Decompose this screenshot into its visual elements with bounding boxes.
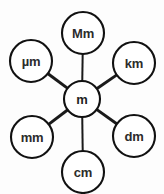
spoke-m-to-um	[47, 73, 68, 89]
unit-node-dm: dm	[113, 115, 155, 157]
unit-label-km: km	[125, 56, 143, 71]
spoke-m-to-km	[96, 74, 118, 89]
unit-nodes-group: Mmkmdmcmmmµmm	[10, 12, 155, 193]
unit-node-km: km	[113, 42, 155, 84]
unit-label-Mm: Mm	[72, 26, 94, 41]
unit-node-um: µm	[10, 40, 52, 82]
unit-label-um: µm	[22, 54, 41, 69]
unit-node-Mm: Mm	[62, 12, 104, 54]
unit-node-cm: cm	[62, 151, 104, 193]
unit-label-mm: mm	[21, 130, 44, 145]
diagram-canvas: Mmkmdmcmmmµmm	[0, 0, 164, 194]
unit-label-center: m	[76, 92, 88, 107]
spoke-m-to-dm	[96, 109, 118, 125]
spoke-m-to-mm	[48, 109, 69, 125]
unit-label-cm: cm	[74, 165, 92, 180]
unit-label-dm: dm	[124, 129, 143, 144]
unit-node-mm: mm	[11, 116, 53, 158]
unit-node-center-m: m	[64, 81, 100, 117]
unit-relationship-diagram: Mmkmdmcmmmµmm	[0, 0, 164, 194]
